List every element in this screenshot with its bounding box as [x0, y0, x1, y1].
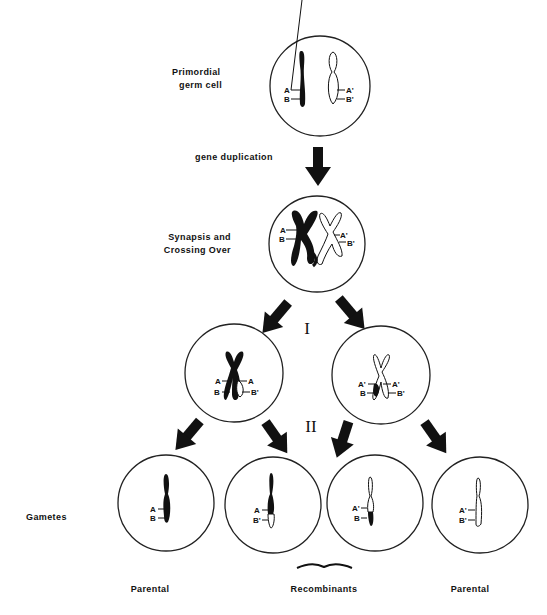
- allele-A: A: [215, 377, 221, 386]
- allele-A-prime: A': [358, 380, 366, 389]
- allele-A-prime: A': [352, 504, 360, 513]
- meiosis-II-arrow-1-icon: [166, 413, 209, 458]
- meiosis-I-right-arrow-icon: [330, 291, 374, 337]
- meiosis-I-left-arrow-icon: [253, 295, 297, 341]
- division-II-label: II: [305, 417, 317, 436]
- allele-A-prime: A': [459, 506, 467, 515]
- allele-B: B: [354, 514, 360, 523]
- allele-A: A: [254, 506, 260, 515]
- recombinants-brace-icon: [297, 564, 352, 568]
- meiosis-I-right-cell: A' B A' B': [332, 326, 430, 424]
- allele-A: A: [248, 377, 254, 386]
- allele-A: A: [280, 226, 286, 235]
- allele-B-prime: B': [251, 388, 259, 397]
- meiosis-I-left-cell: A B A B': [185, 324, 283, 422]
- gamete-2: A B': [225, 457, 321, 553]
- meiosis-diagram: A B A' B' A B A' B' I: [0, 0, 547, 615]
- allele-B: B: [360, 389, 366, 398]
- gene-duplication-arrow-icon: [305, 147, 331, 186]
- allele-A: A: [150, 505, 156, 514]
- meiosis-II-arrow-3-icon: [325, 418, 360, 462]
- gamete-1: A B: [118, 455, 214, 551]
- allele-A-prime: A': [346, 86, 354, 95]
- primordial-germ-cell: A B A' B': [270, 0, 370, 136]
- allele-B: B: [150, 514, 156, 523]
- meiosis-II-arrow-2-icon: [256, 415, 297, 460]
- allele-A: A: [284, 86, 290, 95]
- allele-B: B: [279, 235, 285, 244]
- allele-B-prime: B': [346, 95, 354, 104]
- meiosis-II-arrow-4-icon: [415, 415, 456, 460]
- allele-B: B: [214, 388, 220, 397]
- gamete-4: A' B': [432, 457, 528, 553]
- division-I-label: I: [304, 319, 310, 338]
- allele-B-prime: B': [253, 516, 261, 525]
- allele-B: B: [284, 95, 290, 104]
- allele-B-prime: B': [459, 516, 467, 525]
- gamete-3: A' B: [327, 455, 423, 551]
- allele-B-prime: B': [397, 389, 405, 398]
- allele-B-prime: B': [347, 239, 355, 248]
- allele-A-prime: A': [392, 380, 400, 389]
- synapsis-cell: A B A' B': [269, 196, 365, 292]
